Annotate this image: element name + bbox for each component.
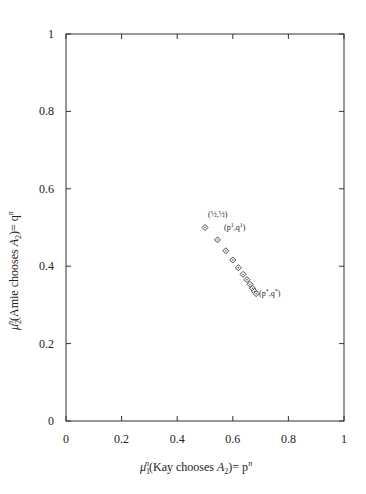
data-points [202, 225, 259, 297]
y-tick-labels: 00.20.40.60.81 [39, 27, 54, 428]
annotation-first: (p1,q1) [224, 222, 246, 232]
y-axis-label: μ2n(Amie chooses A2)= qn [6, 211, 23, 331]
annotation-star: (p*,q*) [259, 288, 281, 298]
y-tick-label: 0.6 [39, 182, 54, 196]
x-tick-label: 0.6 [225, 432, 240, 446]
y-tick-label: 0.2 [39, 337, 54, 351]
x-tick-label: 0.4 [170, 432, 185, 446]
y-tick-label: 0.8 [39, 104, 54, 118]
x-tick-label: 0 [63, 432, 69, 446]
x-axis-label: μ1n(Kay chooses A2)= pn [139, 459, 252, 476]
y-tick-label: 1 [48, 27, 54, 41]
x-tick-label: 0.8 [281, 432, 296, 446]
x-tick-label: 0.2 [114, 432, 129, 446]
y-tick-label: 0 [48, 414, 54, 428]
annotation-start: (½,½) [208, 210, 228, 219]
x-tick-labels: 00.20.40.60.81 [63, 432, 347, 446]
x-tick-label: 1 [341, 432, 347, 446]
chart: 00.20.40.60.81 00.20.40.60.81 (½,½) (p1,… [0, 0, 366, 494]
y-tick-label: 0.4 [39, 259, 54, 273]
